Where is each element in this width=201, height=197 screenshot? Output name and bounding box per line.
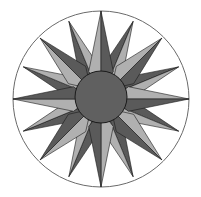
- compass-rose-graphic: [0, 0, 201, 197]
- compass-figure: [0, 0, 201, 197]
- center-disc: [75, 71, 127, 123]
